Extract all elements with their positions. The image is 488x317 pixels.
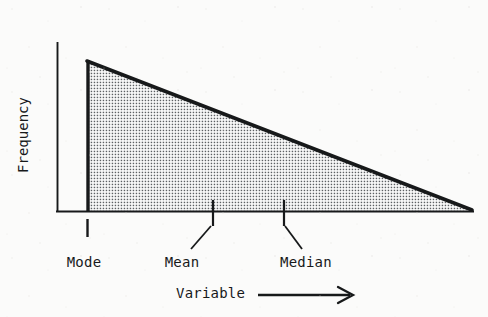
y-axis-label: Frequency — [10, 50, 36, 220]
x-axis-label: Variable — [176, 285, 245, 301]
mean-label: Mean — [165, 254, 200, 270]
mode-label: Mode — [67, 254, 102, 270]
median-label: Median — [280, 254, 332, 270]
figure-canvas: Frequency Mode Mean Median Variable — [0, 0, 488, 317]
median-leader-line — [285, 226, 302, 249]
mean-leader-line — [191, 226, 211, 249]
